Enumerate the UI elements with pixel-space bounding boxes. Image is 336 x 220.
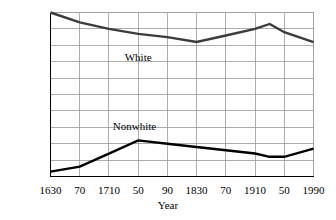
- line-chart: 100%9080706050403020100 1630701710509018…: [0, 0, 336, 220]
- x-tick-label: 1630: [40, 185, 62, 196]
- x-tick-label: 50: [133, 185, 144, 196]
- x-axis-tick-labels: 163070171050901830701910501990WhiteNonwh…: [0, 0, 336, 220]
- x-tick-label: 1990: [303, 185, 325, 196]
- x-tick-label: 1710: [98, 185, 120, 196]
- x-tick-label: 90: [162, 185, 173, 196]
- series-annotation-nonwhite: Nonwhite: [113, 121, 156, 132]
- x-tick-label: 70: [74, 185, 85, 196]
- x-tick-label: 1830: [186, 185, 208, 196]
- series-annotation-white: White: [125, 52, 152, 63]
- x-tick-label: 70: [220, 185, 231, 196]
- x-tick-label: 50: [279, 185, 290, 196]
- x-axis-title: Year: [0, 200, 336, 211]
- x-tick-label: 1910: [244, 185, 266, 196]
